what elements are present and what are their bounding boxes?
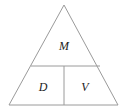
formula-triangle: M D V <box>0 0 119 111</box>
label-density: D <box>38 80 48 94</box>
label-volume: V <box>81 80 90 94</box>
label-mass: M <box>58 39 70 53</box>
